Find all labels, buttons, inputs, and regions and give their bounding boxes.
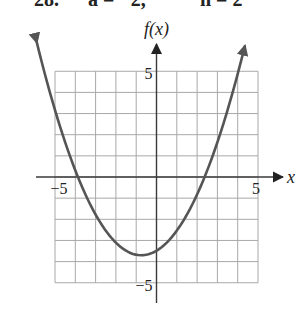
parabola-curve [37,42,245,255]
x-axis-label: x [286,167,295,187]
tick-labels: −555−5 [50,65,260,294]
x-tick-label: 5 [252,180,260,197]
y-tick-label: −5 [135,277,152,294]
y-tick-label: 5 [145,65,153,82]
y-axis-label: f(x) [144,19,169,40]
parabola-graph: x f(x) −555−5 [0,0,308,314]
x-tick-label: −5 [50,180,67,197]
